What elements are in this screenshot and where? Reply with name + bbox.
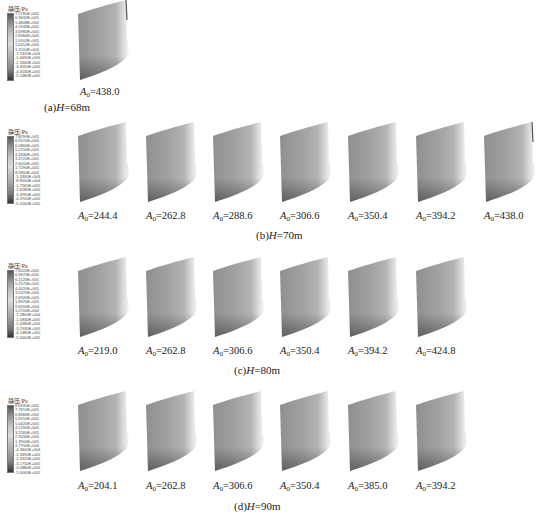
blade-area-label: A0=306.6 xyxy=(280,210,319,223)
value: =438.0 xyxy=(494,210,524,221)
legend-values: 8.6940E+0057.7810E+0056.8680E+0055.9550E… xyxy=(15,404,40,475)
blade-pressure-contour xyxy=(140,391,200,475)
blade-pressure-contour xyxy=(207,257,267,341)
legend-value: -5.2480E+005 xyxy=(15,74,40,78)
caption-var: H xyxy=(246,364,254,376)
legend-colorbar xyxy=(7,270,14,338)
blade-pressure-contour xyxy=(274,122,334,206)
blade-area-label: A0=204.1 xyxy=(78,480,117,493)
blade-area-label: A0=394.2 xyxy=(416,210,455,223)
blade-area-label: A0=394.2 xyxy=(348,345,387,358)
blade-pressure-contour xyxy=(274,391,334,475)
blade-pressure-contour xyxy=(342,391,402,475)
panel-caption-a: (a)H=68m xyxy=(44,101,90,113)
value: =288.6 xyxy=(223,210,253,221)
legend-value: -5.0000E+005 xyxy=(15,336,40,340)
value: =244.4 xyxy=(88,210,118,221)
panel-caption-b: (b)H=70m xyxy=(256,229,303,241)
legend-colorbar xyxy=(7,405,14,473)
legend-value: -5.2000E+005 xyxy=(15,202,40,206)
blade-area-label: A0=288.6 xyxy=(213,210,252,223)
blade-pressure-contour xyxy=(72,257,132,341)
blade-pressure-contour xyxy=(72,391,132,475)
blade-area-label: A0=438.0 xyxy=(484,210,523,223)
blade-area-label: A0=350.4 xyxy=(280,345,319,358)
value: =394.2 xyxy=(426,480,456,491)
value: =350.4 xyxy=(290,480,320,491)
caption-value: =68m xyxy=(64,101,90,113)
value: =394.2 xyxy=(358,345,388,356)
value: =219.0 xyxy=(88,345,118,356)
pressure-legend-a: 静压/Pa 7.2780E+005 6.3632E+005 5.4808E+00… xyxy=(4,5,68,81)
value: =306.6 xyxy=(290,210,320,221)
value: =350.4 xyxy=(358,210,388,221)
caption-value: =80m xyxy=(254,364,280,376)
blade-area-label: A0=306.6 xyxy=(213,345,252,358)
value: =394.2 xyxy=(426,210,456,221)
pressure-legend-c: 静压/Pa 7.8220E+0056.9670E+0056.1120E+0055… xyxy=(4,262,68,338)
value: =262.8 xyxy=(156,210,186,221)
blade-pressure-contour xyxy=(342,122,402,206)
caption-prefix: (b) xyxy=(256,229,269,241)
blade-area-label: A0=424.8 xyxy=(416,345,455,358)
caption-value: =70m xyxy=(277,229,303,241)
blade-pressure-contour xyxy=(207,122,267,206)
legend-values: 7.8290E+0056.9570E+0056.0860E+0055.2150E… xyxy=(15,135,40,206)
blade-area-label: A0=350.4 xyxy=(280,480,319,493)
blade-area-label: A0=262.8 xyxy=(146,345,185,358)
caption-prefix: (d) xyxy=(234,500,247,512)
blade-pressure-contour xyxy=(140,122,200,206)
pressure-legend-b: 静压/Pa 7.8290E+0056.9570E+0056.0860E+0055… xyxy=(4,128,68,204)
blade-pressure-contour xyxy=(410,391,470,475)
panel-caption-d: (d)H=90m xyxy=(234,500,281,512)
blade-area-label: A0=385.0 xyxy=(348,480,387,493)
blade-pressure-contour xyxy=(207,391,267,475)
panel-caption-c: (c)H=80m xyxy=(234,364,280,376)
legend-value: -5.0000E+005 xyxy=(15,471,40,475)
legend-values: 7.2780E+005 6.3632E+005 5.4808E+005 4.59… xyxy=(15,12,40,79)
caption-prefix: (a) xyxy=(44,101,56,113)
value: =262.8 xyxy=(156,345,186,356)
legend-colorbar xyxy=(7,13,14,81)
blade-area-label: A0=262.8 xyxy=(146,480,185,493)
caption-var: H xyxy=(247,500,255,512)
value: =438.0 xyxy=(90,86,120,97)
value: =204.1 xyxy=(88,480,118,491)
blade-pressure-contour xyxy=(478,122,538,206)
blade-pressure-contour xyxy=(410,257,470,341)
blade-area-label: A0=438.0 xyxy=(80,86,119,99)
value: =262.8 xyxy=(156,480,186,491)
blade-area-label: A0=219.0 xyxy=(78,345,117,358)
value: =350.4 xyxy=(290,345,320,356)
caption-prefix: (c) xyxy=(234,364,246,376)
blade-area-label: A0=350.4 xyxy=(348,210,387,223)
caption-var: H xyxy=(269,229,277,241)
blade-pressure-contour xyxy=(342,257,402,341)
blade-area-label: A0=306.6 xyxy=(213,480,252,493)
caption-value: =90m xyxy=(255,500,281,512)
blade-pressure-contour xyxy=(410,122,470,206)
blade-pressure-contour xyxy=(274,257,334,341)
value: =424.8 xyxy=(426,345,456,356)
blade-pressure-contour xyxy=(72,0,132,84)
blade-pressure-contour xyxy=(140,257,200,341)
legend-values: 7.8220E+0056.9670E+0056.1120E+0055.2570E… xyxy=(15,269,40,340)
blade-area-label: A0=262.8 xyxy=(146,210,185,223)
value: =306.6 xyxy=(223,345,253,356)
pressure-legend-d: 静压/Pa 8.6940E+0057.7810E+0056.8680E+0055… xyxy=(4,397,68,473)
legend-colorbar xyxy=(7,136,14,204)
blade-area-label: A0=394.2 xyxy=(416,480,455,493)
value: =385.0 xyxy=(358,480,388,491)
blade-pressure-contour xyxy=(72,122,132,206)
blade-area-label: A0=244.4 xyxy=(78,210,117,223)
value: =306.6 xyxy=(223,480,253,491)
caption-var: H xyxy=(56,101,64,113)
